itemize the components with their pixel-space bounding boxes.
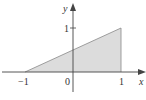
y-tick-label-1: 1 [64, 23, 69, 34]
chart: y 1 −1 0 1 x [0, 0, 146, 100]
x-axis-arrow-icon [138, 69, 146, 75]
x-tick-label-0: 0 [65, 76, 70, 87]
x-tick-label-neg1: −1 [18, 76, 29, 87]
x-axis-label: x [138, 76, 144, 87]
y-axis-label: y [62, 3, 68, 14]
y-axis-arrow-icon [70, 3, 76, 11]
x-tick-label-1: 1 [119, 76, 124, 87]
